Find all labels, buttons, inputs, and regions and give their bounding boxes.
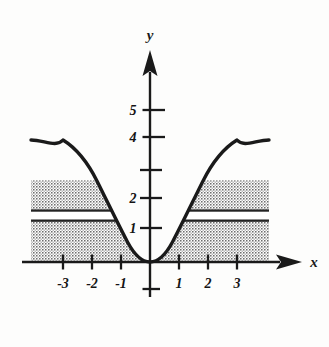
x-tick-label-3: 3 [233, 276, 241, 291]
x-axis-label: x [309, 254, 318, 270]
y-tick-label-5: 5 [130, 103, 137, 118]
horizontal-white-strip [20, 211, 310, 220]
math-figure: -3 -2 -1 1 2 3 5 4 2 1 x y [0, 0, 329, 347]
white-slice-group [20, 209, 310, 221]
y-tick-label-4: 4 [129, 130, 137, 145]
y-tick-label-2: 2 [129, 191, 137, 206]
x-tick-label--2: -2 [86, 276, 98, 291]
y-tick-label-1: 1 [130, 221, 137, 236]
white-strip-top-rule [20, 209, 310, 211]
upper-shaded-band [20, 180, 310, 211]
y-axis-label: y [145, 27, 154, 43]
x-tick-label--1: -1 [115, 276, 127, 291]
x-tick-label-1: 1 [176, 276, 183, 291]
x-tick-label--3: -3 [57, 276, 69, 291]
x-tick-label-2: 2 [204, 276, 212, 291]
graph-canvas: -3 -2 -1 1 2 3 5 4 2 1 x y [0, 0, 329, 347]
white-strip-bottom-rule [20, 220, 310, 222]
